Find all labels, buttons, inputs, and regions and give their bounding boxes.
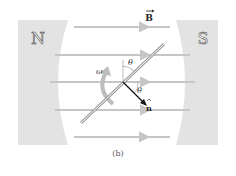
svg-text:B: B: [145, 13, 153, 23]
field-label: B: [145, 10, 154, 24]
angle-label-top: θ: [128, 58, 133, 67]
south-pole-label: S: [198, 29, 209, 48]
angle-label-bottom: θ: [137, 86, 142, 95]
normal-vector-label: n: [146, 99, 152, 113]
svg-text:n: n: [146, 103, 152, 113]
north-pole-label: N: [31, 29, 45, 48]
angular-velocity-label: ω: [96, 67, 103, 76]
figure-caption: (b): [0, 149, 236, 158]
